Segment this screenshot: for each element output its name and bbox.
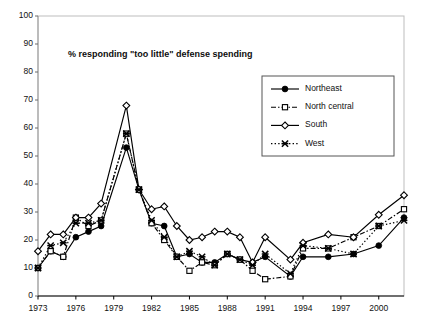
series-marker-northeast: [376, 243, 382, 249]
series-marker-north-central: [263, 277, 268, 282]
y-axis-tick-label: 0: [5, 290, 33, 300]
series-marker-northeast: [98, 223, 104, 229]
y-axis-tick-label: 10: [5, 262, 33, 272]
series-marker-north-central: [61, 254, 66, 259]
y-axis-tick-label: 20: [5, 234, 33, 244]
series-marker-northeast: [325, 254, 331, 260]
series-marker-south: [161, 203, 168, 210]
x-axis-tick-label: 1991: [249, 303, 281, 313]
series-marker-northeast: [73, 234, 79, 240]
chart-canvas: [0, 0, 424, 320]
x-axis-tick-label: 1997: [325, 303, 357, 313]
series-marker-south: [148, 206, 155, 213]
x-axis-tick-label: 1982: [136, 303, 168, 313]
legend-label-north-central: North central: [305, 101, 354, 111]
x-axis-tick-label: 1988: [211, 303, 243, 313]
series-marker-south: [123, 102, 130, 109]
legend-marker-north-central: [282, 105, 287, 110]
x-axis-tick-label: 1985: [173, 303, 205, 313]
series-marker-north-central: [199, 260, 204, 265]
y-axis-tick-label: 100: [5, 10, 33, 20]
y-axis-tick-label: 80: [5, 66, 33, 76]
legend-label-northeast: Northeast: [305, 83, 342, 93]
series-marker-north-central: [187, 268, 192, 273]
series-marker-south: [211, 228, 218, 235]
x-axis-tick-label: 1994: [287, 303, 319, 313]
series-marker-north-central: [250, 268, 255, 273]
legend-label-west: West: [305, 138, 324, 148]
x-axis-tick-label: 1973: [22, 303, 54, 313]
x-axis-tick-label: 1976: [60, 303, 92, 313]
series-marker-south: [199, 234, 206, 241]
series-marker-northeast: [123, 145, 129, 151]
series-marker-north-central: [401, 207, 406, 212]
defense-spending-line-chart: 0102030405060708090100197319761979198219…: [0, 0, 424, 320]
y-axis-tick-label: 50: [5, 150, 33, 160]
legend-marker-northeast: [282, 86, 288, 92]
series-marker-northeast: [86, 229, 92, 235]
series-marker-northeast: [300, 254, 306, 260]
series-marker-south: [325, 231, 332, 238]
chart-title: % responding "too little" defense spendi…: [68, 49, 253, 59]
legend-label-south: South: [305, 119, 327, 129]
series-marker-north-central: [48, 249, 53, 254]
y-axis-tick-label: 40: [5, 178, 33, 188]
y-axis-tick-label: 30: [5, 206, 33, 216]
series-marker-northeast: [161, 223, 167, 229]
series-marker-south: [237, 234, 244, 241]
y-axis-tick-label: 90: [5, 38, 33, 48]
x-axis-tick-label: 1979: [98, 303, 130, 313]
x-axis-tick-label: 2000: [363, 303, 395, 313]
y-axis-tick-label: 70: [5, 94, 33, 104]
series-marker-south: [224, 228, 231, 235]
y-axis-tick-label: 60: [5, 122, 33, 132]
